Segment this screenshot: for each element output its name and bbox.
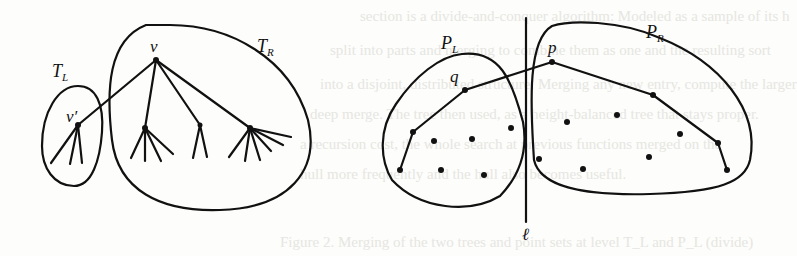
node [198,123,203,128]
point-p [549,59,555,65]
tree-edge [145,128,173,154]
label-right-set: PR [645,22,664,44]
point [580,166,586,172]
point [614,112,620,118]
point [650,92,656,98]
node [142,125,148,131]
tree-edge [78,60,156,125]
left-tree-outline [42,86,102,186]
node-root [153,57,159,63]
tree-edge [156,60,250,128]
point [715,140,721,146]
label-root: ν [150,37,158,56]
point [431,138,437,144]
point [646,154,652,160]
tree-edge [193,125,200,158]
tree-edge [78,125,82,163]
point [564,119,570,125]
point [469,136,475,142]
tree-edge [156,60,200,125]
label-dividing-line: ℓ [522,225,529,244]
tree-edge [145,128,161,161]
point [481,172,487,178]
point [508,125,514,131]
label-right-tree: TR [257,36,274,58]
label-child: ν′ [66,107,78,126]
node [247,125,253,131]
point [410,129,416,135]
point [724,167,730,173]
point [438,167,444,173]
point [536,156,542,162]
tree-edge [200,125,207,157]
label-point-p: p [547,38,557,57]
tree-edge [131,128,145,158]
label-left-tree: TL [52,61,68,83]
right-tree-outline [109,25,310,210]
point [397,167,403,173]
point-q [462,87,468,93]
label-point-q: q [450,67,459,86]
right-set-outline [532,22,752,194]
tree-edge [145,60,156,128]
label-left-set: PL [440,33,458,55]
point [677,131,683,137]
